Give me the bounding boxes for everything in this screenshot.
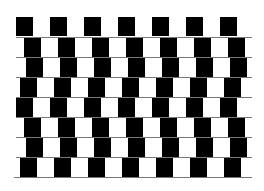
black-tile bbox=[92, 118, 109, 137]
black-tile bbox=[26, 138, 43, 157]
black-tile bbox=[88, 158, 105, 177]
black-tile bbox=[230, 138, 247, 157]
black-tile bbox=[224, 78, 241, 97]
black-tile bbox=[152, 17, 169, 36]
tile-row bbox=[16, 17, 240, 36]
black-tile bbox=[94, 58, 111, 77]
black-tile bbox=[160, 38, 177, 57]
black-tile bbox=[126, 38, 143, 57]
black-tile bbox=[194, 38, 211, 57]
black-tile bbox=[156, 158, 173, 177]
black-tile bbox=[26, 58, 43, 77]
black-tile bbox=[58, 118, 75, 137]
tile-row bbox=[16, 78, 252, 97]
black-tile bbox=[84, 17, 101, 36]
black-tile bbox=[230, 58, 247, 77]
black-tile bbox=[128, 58, 145, 77]
black-tile bbox=[162, 138, 179, 157]
black-tile bbox=[228, 118, 245, 137]
black-tile bbox=[224, 158, 241, 177]
black-tile bbox=[92, 38, 109, 57]
mortar-line bbox=[16, 97, 252, 98]
black-tile bbox=[220, 98, 237, 117]
black-tile bbox=[118, 98, 135, 117]
cafe-wall-illusion bbox=[0, 0, 264, 191]
black-tile bbox=[126, 118, 143, 137]
black-tile bbox=[58, 38, 75, 57]
black-tile bbox=[16, 98, 33, 117]
black-tile bbox=[152, 98, 169, 117]
black-tile bbox=[50, 17, 67, 36]
black-tile bbox=[122, 158, 139, 177]
black-tile bbox=[160, 118, 177, 137]
mortar-line bbox=[16, 77, 252, 78]
mortar-line bbox=[16, 117, 252, 118]
mortar-line bbox=[14, 177, 252, 178]
black-tile bbox=[118, 17, 135, 36]
black-tile bbox=[20, 158, 37, 177]
black-tile bbox=[16, 17, 33, 36]
black-tile bbox=[54, 158, 71, 177]
black-tile bbox=[196, 58, 213, 77]
mortar-line bbox=[16, 57, 252, 58]
black-tile bbox=[190, 158, 207, 177]
tile-row bbox=[20, 118, 252, 137]
black-tile bbox=[50, 98, 67, 117]
tile-row bbox=[16, 98, 252, 117]
black-tile bbox=[84, 98, 101, 117]
black-tile bbox=[190, 78, 207, 97]
tile-row bbox=[16, 58, 252, 77]
black-tile bbox=[60, 58, 77, 77]
black-tile bbox=[186, 17, 203, 36]
tile-row bbox=[20, 38, 252, 57]
black-tile bbox=[24, 38, 41, 57]
mortar-line bbox=[16, 157, 252, 158]
tile-row bbox=[16, 138, 252, 157]
black-tile bbox=[122, 78, 139, 97]
mortar-line bbox=[16, 37, 252, 38]
black-tile bbox=[94, 138, 111, 157]
black-tile bbox=[228, 38, 245, 57]
black-tile bbox=[194, 118, 211, 137]
black-tile bbox=[24, 118, 41, 137]
black-tile bbox=[54, 78, 71, 97]
black-tile bbox=[162, 58, 179, 77]
black-tile bbox=[220, 17, 237, 36]
black-tile bbox=[156, 78, 173, 97]
black-tile bbox=[196, 138, 213, 157]
black-tile bbox=[60, 138, 77, 157]
mortar-line bbox=[16, 137, 252, 138]
tile-row bbox=[16, 158, 252, 177]
figure-caption bbox=[90, 185, 180, 189]
black-tile bbox=[20, 78, 37, 97]
black-tile bbox=[88, 78, 105, 97]
black-tile bbox=[186, 98, 203, 117]
black-tile bbox=[128, 138, 145, 157]
